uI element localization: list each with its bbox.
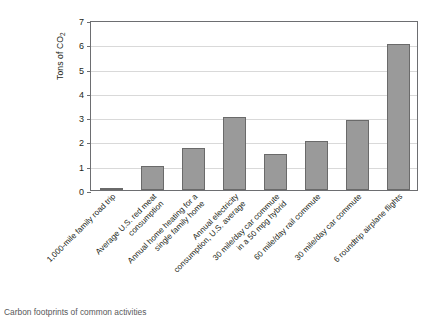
y-axis-title-subscript: 2 (59, 32, 66, 36)
bar (305, 141, 328, 190)
plot-area: 01234567 (90, 21, 418, 191)
y-axis-title: Tons of CO2 (55, 0, 65, 80)
y-axis-tick-label: 1 (79, 163, 84, 173)
chart-figure: Tons of CO2 01234567 1,000-mile family r… (0, 0, 439, 317)
y-axis-title-text: Tons of CO (55, 36, 65, 80)
y-axis-tick-label: 4 (79, 90, 84, 100)
bar (346, 120, 369, 190)
y-axis-tick-label: 2 (79, 138, 84, 148)
bar (223, 117, 246, 190)
y-axis-tick-label: 0 (79, 187, 84, 197)
figure-caption: Carbon footprints of common activities (4, 307, 434, 317)
bar-series (91, 22, 417, 190)
bar (100, 188, 123, 190)
y-axis-tick-label: 6 (79, 41, 84, 51)
y-axis-tick-label: 5 (79, 66, 84, 76)
x-axis-labels: 1,000-mile family road tripAverage U.S. … (90, 192, 418, 292)
bar (182, 148, 205, 191)
bar (141, 166, 164, 190)
y-axis-tick-label: 7 (79, 17, 84, 27)
y-axis-tick-label: 3 (79, 114, 84, 124)
bar (387, 44, 410, 190)
bar (264, 154, 287, 190)
